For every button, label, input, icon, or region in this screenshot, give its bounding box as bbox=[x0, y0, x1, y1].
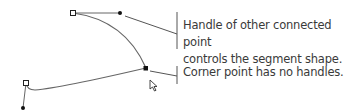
callout-handle-controls-segment: Handle of other connected point controls… bbox=[183, 17, 358, 68]
anchor-point-left[interactable] bbox=[24, 81, 29, 86]
callout-leader-2 bbox=[150, 71, 177, 76]
anchor-point-top[interactable] bbox=[71, 11, 76, 16]
path-segment-lower bbox=[26, 68, 146, 90]
callout-corner-point: Corner point has no handles. bbox=[183, 64, 358, 81]
handle-line-left bbox=[23, 83, 26, 108]
corner-point[interactable] bbox=[144, 66, 149, 71]
direct-selection-arrow-icon bbox=[150, 80, 157, 91]
handle-endpoint-left[interactable] bbox=[21, 106, 25, 110]
callout-1-line-1: Handle of other connected point bbox=[183, 17, 358, 51]
handle-endpoint-top[interactable] bbox=[118, 11, 122, 15]
callout-leader-1 bbox=[125, 16, 177, 34]
path-segment-upper bbox=[73, 13, 146, 68]
callout-2-line-1: Corner point has no handles. bbox=[183, 64, 358, 81]
